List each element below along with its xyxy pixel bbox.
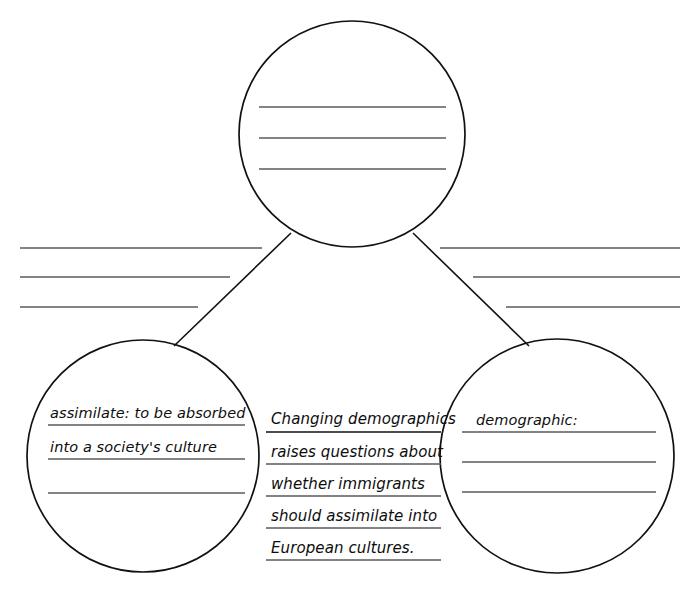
center-line-3[interactable]: whether immigrants xyxy=(271,477,425,492)
vocabulary-circle-demographic xyxy=(440,339,674,573)
right-circle-line-1[interactable]: demographic: xyxy=(476,413,578,428)
connector-line-left xyxy=(174,233,291,346)
organizer-diagram xyxy=(0,0,693,592)
center-line-2[interactable]: raises questions about xyxy=(271,445,443,460)
connector-line-right xyxy=(413,233,529,346)
worksheet-canvas: assimilate: to be absorbed into a societ… xyxy=(0,0,693,592)
vocabulary-circle-assimilate xyxy=(27,340,259,572)
center-line-1[interactable]: Changing demographics xyxy=(271,412,456,427)
left-circle-line-1[interactable]: assimilate: to be absorbed xyxy=(50,406,246,421)
center-line-4[interactable]: should assimilate into xyxy=(271,509,437,524)
left-circle-line-2[interactable]: into a society's culture xyxy=(50,440,217,455)
center-line-5[interactable]: European cultures. xyxy=(271,541,415,556)
main-idea-circle xyxy=(239,21,465,247)
